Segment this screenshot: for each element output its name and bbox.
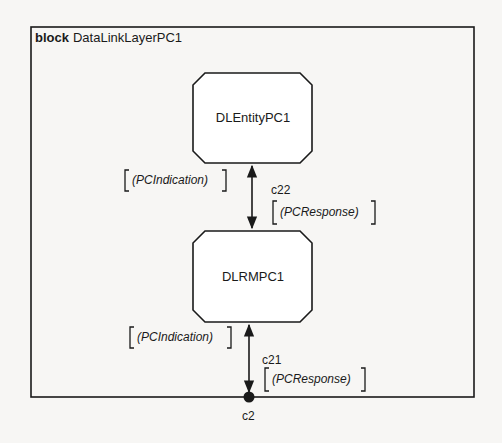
- signal-bracket-right: [361, 368, 365, 391]
- signal-pcresponse-c22: (PCResponse): [273, 206, 366, 218]
- frame-title: blockDataLinkLayerPC1: [35, 31, 182, 44]
- block-dlentitypc1-label: DLEntityPC1: [193, 111, 313, 124]
- channel-c21-label: c21: [262, 354, 281, 366]
- diagram-canvas: [0, 0, 502, 443]
- signal-bracket-right: [222, 170, 226, 191]
- signal-pcresponse-c21: (PCResponse): [265, 373, 358, 385]
- channel-c22-label: c22: [271, 184, 290, 196]
- signal-pcindication-c22: (PCIndication): [125, 174, 215, 186]
- signal-bracket-right: [371, 201, 375, 224]
- block-dlrmpc1-label: DLRMPC1: [193, 270, 313, 283]
- frame-name: DataLinkLayerPC1: [73, 30, 182, 45]
- frame-keyword: block: [35, 30, 69, 45]
- signal-pcindication-c21: (PCIndication): [130, 331, 220, 343]
- signal-bracket-right: [227, 327, 231, 348]
- gate-c2-label: c2: [242, 410, 255, 422]
- gate-c2-dot[interactable]: [244, 392, 255, 403]
